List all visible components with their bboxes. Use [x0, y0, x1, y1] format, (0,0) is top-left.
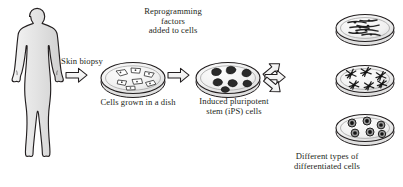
petri-dish-skin-cells — [101, 63, 165, 98]
label-specific-culture-conditions: Specific culture conditions for differen… — [284, 0, 306, 14]
petri-dish-round-cells — [336, 115, 394, 146]
petri-dish-star-cells — [336, 66, 394, 97]
label-skin-biopsy: Skin biopsy — [61, 57, 103, 67]
petri-dish-elongated-cells — [336, 15, 394, 46]
arrow-biopsy — [66, 68, 87, 82]
label-different-types-differentiated-cells: Different types of differentiated cells — [253, 152, 401, 171]
label-reprogramming-factors: Reprogramming factors added to cells — [131, 7, 215, 36]
arrow-reprogramming — [168, 68, 189, 82]
petri-dish-ips-colonies — [196, 63, 260, 98]
figure-canvas: Skin biopsy Reprogramming factors added … — [0, 0, 403, 187]
human-figure — [12, 8, 63, 156]
label-cells-grown-in-dish: Cells grown in a dish — [81, 98, 195, 108]
label-induced-pluripotent-stem-cells: Induced pluripotent stem (iPS) cells — [179, 97, 289, 116]
